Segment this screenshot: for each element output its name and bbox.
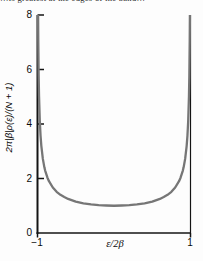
y-tick-label: 8 <box>17 9 32 21</box>
figure-panel: …is greatest at the edges of the band… 0… <box>0 0 203 261</box>
y-tick-label: 6 <box>17 64 32 76</box>
y-tick-label: 2 <box>17 173 32 185</box>
y-tick-label: 4 <box>17 118 32 130</box>
density-of-states-curve <box>38 15 190 206</box>
x-tick-label: −1 <box>25 237 49 249</box>
density-of-states-chart <box>0 0 203 261</box>
x-axis-label: ε/2β <box>77 238 153 251</box>
x-tick-label: 1 <box>178 237 202 249</box>
y-axis-label: 2π|β|ρ(ε)/(N + 1) <box>3 58 16 178</box>
